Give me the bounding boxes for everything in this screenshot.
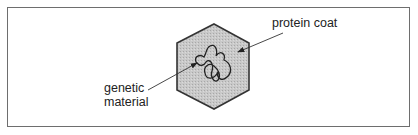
genetic-material-label: genetic material xyxy=(104,81,148,109)
virus-diagram xyxy=(0,0,418,135)
genetic-material-label-line2: material xyxy=(104,95,148,109)
genetic-material-label-line1: genetic xyxy=(104,81,148,95)
protein-coat-label: protein coat xyxy=(272,16,337,30)
